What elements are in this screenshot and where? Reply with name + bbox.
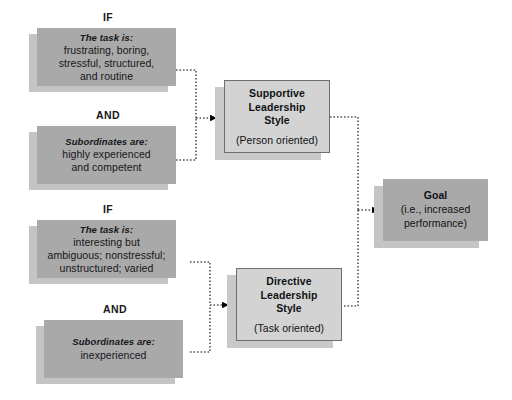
box-face: The task is: frustrating, boring, stress… [37,28,176,86]
style-box-supportive: Supportive Leadership Style (Person orie… [224,80,330,153]
condition-box-subordinates-supportive: Subordinates are: highly experienced and… [37,126,176,184]
conjunction-and-1: AND [33,109,183,121]
condition-lead: The task is: [17,32,197,44]
box-face: Directive Leadership Style (Task oriente… [236,268,342,341]
condition-text: frustrating, boring, stressful, structur… [17,44,197,82]
condition-lead: Subordinates are: [17,136,197,148]
box-face: Subordinates are: highly experienced and… [37,126,176,184]
style-box-directive: Directive Leadership Style (Task oriente… [236,268,342,341]
conjunction-if-2: IF [33,203,183,215]
condition-box-subordinates-directive: Subordinates are: inexperienced [44,320,183,378]
condition-lead: Subordinates are: [24,336,204,348]
condition-lead: The task is: [17,224,197,236]
conjunction-if-1: IF [33,11,183,23]
style-title: Directive Leadership Style [260,275,317,316]
diagram-canvas: IF AND IF AND The task is: frustrating, … [0,0,512,400]
goal-subtitle: (i.e., increased performance) [401,203,471,230]
condition-text: interesting but ambiguous; nonstressful;… [17,236,197,274]
conjunction-and-2: AND [40,303,190,315]
goal-title: Goal [424,189,448,201]
condition-text: highly experienced and competent [17,148,197,174]
goal-box: Goal (i.e., increased performance) [383,179,488,241]
style-subtitle: (Task oriented) [254,322,324,334]
condition-text: inexperienced [24,349,204,362]
style-title: Supportive Leadership Style [248,87,305,128]
condition-box-task-directive: The task is: interesting but ambiguous; … [37,220,176,278]
box-face: The task is: interesting but ambiguous; … [37,220,176,278]
box-face: Supportive Leadership Style (Person orie… [224,80,330,153]
box-face: Subordinates are: inexperienced [44,320,183,378]
condition-box-task-supportive: The task is: frustrating, boring, stress… [37,28,176,86]
style-subtitle: (Person oriented) [236,134,318,146]
box-face: Goal (i.e., increased performance) [383,179,488,241]
